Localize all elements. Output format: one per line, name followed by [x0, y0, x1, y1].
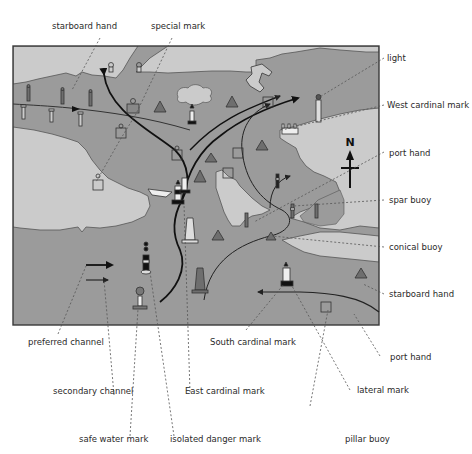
label-lateral-mark: lateral mark [357, 385, 409, 395]
label-light: light [387, 53, 406, 63]
port-spar-icon [78, 112, 83, 126]
label-west-cardinal-mark: West cardinal mark [387, 100, 469, 110]
spar-buoy-icon [291, 204, 295, 218]
label-preferred-channel: preferred channel [28, 337, 104, 347]
starboard-spar-icon [89, 90, 92, 107]
port-spar-icon [49, 109, 54, 122]
spar-buoy-icon [245, 213, 248, 227]
starboard-spar-icon [61, 88, 64, 105]
pier-icon [282, 124, 298, 134]
light-tower-icon [316, 95, 321, 123]
port-spar-icon [21, 105, 26, 119]
label-starboard-hand-top: starboard hand [52, 21, 117, 31]
nautical-chart-diagram: N starboard hand special mark light West… [0, 0, 472, 454]
spar-buoy-icon [315, 204, 318, 218]
label-east-cardinal-mark: East cardinal mark [185, 386, 265, 396]
label-starboard-hand-right: starboard hand [389, 289, 454, 299]
label-conical-buoy: conical buoy [389, 242, 443, 252]
label-spar-buoy: spar buoy [389, 195, 431, 205]
spar-buoy-icon [276, 174, 279, 188]
label-pillar-buoy: pillar buoy [345, 434, 390, 444]
label-special-mark: special mark [151, 21, 205, 31]
label-secondary-channel: secondary channel [53, 386, 133, 396]
label-port-hand-right: port hand [389, 148, 431, 158]
island-north [177, 85, 211, 105]
label-port-hand-bottom: port hand [390, 352, 432, 362]
starboard-spar-icon [27, 85, 30, 102]
label-safe-water-mark: safe water mark [79, 434, 148, 444]
compass-north-label: N [345, 136, 354, 149]
label-isolated-danger-mark: isolated danger mark [170, 434, 261, 444]
label-south-cardinal-mark: South cardinal mark [210, 337, 296, 347]
